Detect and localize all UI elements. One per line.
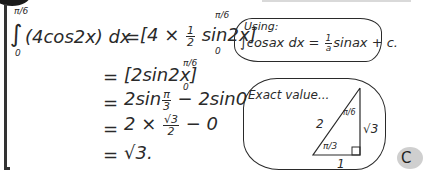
top-divider [262,0,411,2]
step-1-lower-limit: 0 [215,46,221,56]
triangle-bottom-angle-label: π/3 [323,141,337,151]
fraction-one-over-a: 1a [325,34,333,53]
step-2-upper-limit: π/6 [183,58,197,68]
section-badge: C [397,147,423,169]
triangle-opposite-label: √3 [363,122,378,136]
equals-sign: = [103,66,118,87]
fraction-root3-over-2: √32 [163,114,179,137]
hint-using-title: Using: [244,20,279,33]
margin-rule-foot [4,167,10,170]
hint-using-formula: ∫cosax dx = 1asinax + c. [240,34,398,53]
equals-sign: = [103,118,118,139]
integral-upper-limit: π/6 [14,6,28,16]
fraction-pi-over-3: π3 [162,89,171,112]
triangle-hypotenuse-label: 2 [316,117,324,131]
equals-sign: = [103,144,118,165]
equals-sign: = [125,26,140,47]
integrand: (4cos2x) dx [25,26,131,47]
left-margin-rule [4,4,7,170]
integral-sign: ∫ [10,20,23,48]
step-4-expression: 2 × √32 − 0 [124,113,218,137]
step-3-expression: 2sinπ3 − 2sin0 [124,88,247,112]
triangle-adjacent-label: 1 [337,157,345,171]
integral-lower-limit: 0 [15,48,21,58]
step-1-upper-limit: π/6 [215,10,229,20]
final-answer: √3. [124,142,153,163]
fraction-one-half: 12 [186,25,195,48]
step-1-prefix: [4 × [140,24,185,45]
equals-sign: = [103,92,118,113]
triangle-top-angle-label: π/6 [343,108,356,117]
